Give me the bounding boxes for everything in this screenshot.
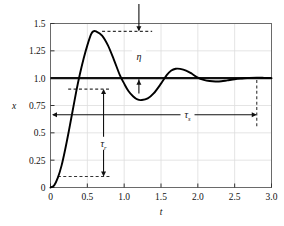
step-response-chart: 00.51.01.52.02.53.0 00.250.50.751.01.251… [0,0,284,226]
x-axis-label: t [160,207,163,217]
x-tick-label: 2.0 [192,192,204,202]
figure-step-response: 00.51.01.52.02.53.0 00.250.50.751.01.251… [0,0,284,226]
x-tick-label: 0.5 [81,192,93,202]
y-tick-label: 0.75 [29,101,46,111]
gridlines [51,24,272,188]
x-tick-label: 1.5 [155,192,167,202]
settling-time-arrowhead-right [252,112,257,117]
overshoot-bottom-arrowhead [136,80,141,85]
y-tick-label: 0.25 [29,156,46,166]
settling-time-arrowhead-left [52,112,57,117]
y-tick-label: 1.5 [34,19,46,29]
x-tick-label: 3.0 [266,192,278,202]
annotation-label: η [136,51,141,62]
annotation-overshoot: η [132,49,146,62]
y-tick-label: 1.0 [34,74,46,84]
y-tick-label: 1.25 [29,46,46,56]
y-axis-label: x [11,101,17,111]
annotation-arrows [52,4,257,177]
annotation-rise-time: τr [97,137,111,151]
x-tick-label: 2.5 [229,192,241,202]
x-tick-label: 0 [48,192,53,202]
x-axis-ticks: 00.51.01.52.02.53.0 [48,184,278,202]
y-tick-label: 0 [41,183,46,193]
y-tick-label: 0.5 [34,128,46,138]
rise-time-arrowhead-up [101,89,106,94]
x-tick-label: 1.0 [118,192,130,202]
rise-time-arrowhead-down [101,172,106,177]
annotation-settling-time: τs [181,108,195,122]
overshoot-top-arrowhead [136,26,141,31]
